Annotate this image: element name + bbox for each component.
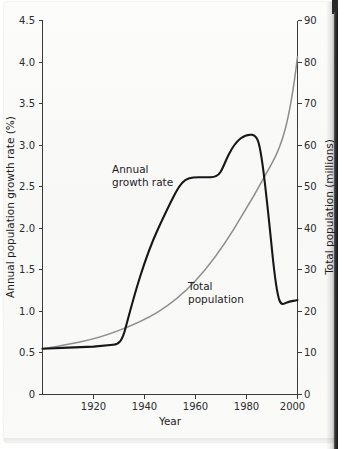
x-tick-label-1920: 1920 [81,401,106,412]
right-tick-label-80: 80 [304,57,317,68]
left-tick-label-4-5: 4.5 [19,15,35,26]
x-tick-label-1940: 1940 [132,401,157,412]
right-tick-label-60: 60 [304,140,317,151]
x-tick-label-1980: 1980 [234,401,259,412]
annotation-total-population: Total population [187,280,244,305]
left-tick-label-4-0: 4.0 [19,57,35,68]
left-axis-ticks [39,21,43,395]
annotation-annual-growth-rate: Annual growth rate [112,163,173,188]
left-tick-label-0: 0 [29,389,35,400]
right-tick-label-50: 50 [304,181,317,192]
left-tick-label-0-5: 0.5 [19,347,35,358]
left-tick-label-3-0: 3.0 [19,140,35,151]
annotation-population-line2: population [188,293,244,305]
right-tick-label-90: 90 [304,15,317,26]
annotation-population-line1: Total [187,280,213,292]
right-tick-label-20: 20 [304,306,317,317]
right-tick-label-0: 0 [304,389,310,400]
right-axis-ticks [298,21,302,395]
left-tick-label-3-5: 3.5 [19,98,35,109]
figure-page: 0 0.5 1.0 1.5 2.0 2.5 3.0 3.5 4.0 4.5 0 … [0,0,348,449]
left-tick-label-1-5: 1.5 [19,264,35,275]
annotation-growth-line2: growth rate [112,176,173,188]
left-tick-label-1-0: 1.0 [19,306,35,317]
left-axis-title: Annual population growth rate (%) [4,116,16,298]
right-tick-label-40: 40 [304,223,317,234]
population-growth-chart: 0 0.5 1.0 1.5 2.0 2.5 3.0 3.5 4.0 4.5 0 … [0,0,348,449]
left-tick-label-2-5: 2.5 [19,181,35,192]
x-axis-title: Year [158,415,182,427]
x-tick-label-1960: 1960 [183,401,208,412]
series-line-annual-growth-rate [43,135,298,349]
left-tick-label-2-0: 2.0 [19,223,35,234]
x-axis-ticks [94,395,298,399]
right-tick-label-30: 30 [304,264,317,275]
x-tick-label-2000: 2000 [280,401,305,412]
right-axis-title: Total population (millions) [323,139,335,276]
annotation-growth-line1: Annual [112,163,149,175]
right-tick-label-70: 70 [304,98,317,109]
right-tick-label-10: 10 [304,347,317,358]
